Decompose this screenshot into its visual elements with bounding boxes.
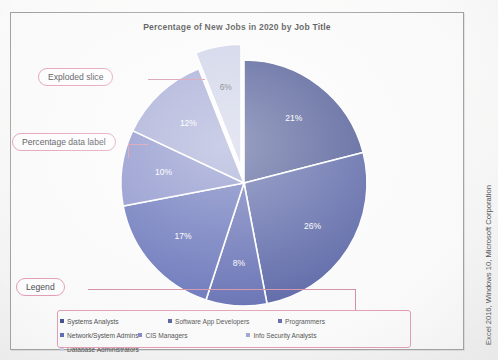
pie-data-label-programmers: 8%: [233, 258, 246, 268]
callout-leader-data-label-v: [128, 144, 129, 158]
legend-swatch-programmers: [278, 319, 282, 323]
callout-legend: Legend: [16, 278, 65, 296]
pie-data-label-cis-managers: 10%: [155, 167, 172, 177]
callout-leader-data-label-h: [128, 144, 148, 145]
legend-item-database-administrators[interactable]: Database Administrators: [60, 343, 139, 355]
legend-swatch-network-system-admins: [60, 333, 64, 337]
credit-text: Excel 2016, Windows 10, Microsoft Corpor…: [484, 185, 493, 345]
legend-label-software-app-developers: Software App Developers: [175, 318, 249, 325]
callout-exploded-slice: Exploded slice: [38, 68, 113, 86]
legend-swatch-database-administrators: [60, 347, 64, 351]
legend-label-systems-analysts: Systems Analysts: [67, 318, 119, 325]
legend-item-systems-analysts[interactable]: Systems Analysts: [60, 315, 168, 327]
pie-data-label-systems-analysts: 21%: [285, 113, 302, 123]
legend-label-info-security-analysts: Info Security Analysts: [253, 332, 316, 339]
legend-item-info-security-analysts[interactable]: Info Security Analysts: [246, 329, 356, 341]
pie-data-label-software-app-developers: 26%: [304, 221, 321, 231]
chart-frame: Percentage of New Jobs in 2020 by Job Ti…: [10, 12, 464, 350]
legend-item-software-app-developers[interactable]: Software App Developers: [168, 315, 278, 327]
callout-leader-legend-v: [355, 289, 356, 311]
callout-leader-exploded-slice: [148, 79, 205, 80]
legend-swatch-software-app-developers: [168, 319, 172, 323]
legend-swatch-systems-analysts: [60, 319, 64, 323]
pie-data-label-database-administrators: 6%: [220, 82, 233, 92]
callout-leader-legend-h: [88, 289, 356, 290]
legend-swatch-cis-managers: [138, 333, 142, 337]
pie-data-label-info-security-analysts: 12%: [180, 118, 197, 128]
chart-legend: Systems Analysts Software App Developers…: [60, 315, 412, 357]
legend-label-network-system-admins: Network/System Admins: [67, 332, 138, 339]
pie-data-label-network-system-admins: 17%: [175, 231, 192, 241]
credit-holder: Excel 2016, Windows 10, Microsoft Corpor…: [481, 170, 495, 360]
legend-label-cis-managers: CIS Managers: [145, 332, 187, 339]
pie-chart-svg: 21%26%8%17%10%12%6%: [11, 13, 463, 349]
legend-label-database-administrators: Database Administrators: [67, 346, 139, 353]
legend-item-cis-managers[interactable]: CIS Managers: [138, 329, 246, 341]
legend-swatch-info-security-analysts: [246, 333, 250, 337]
legend-label-programmers: Programmers: [285, 318, 325, 325]
callout-percentage-data-label: Percentage data label: [12, 133, 116, 151]
pie-chart-area: 21%26%8%17%10%12%6%: [11, 13, 463, 349]
legend-item-network-system-admins[interactable]: Network/System Admins: [60, 329, 138, 341]
legend-item-programmers[interactable]: Programmers: [278, 315, 386, 327]
